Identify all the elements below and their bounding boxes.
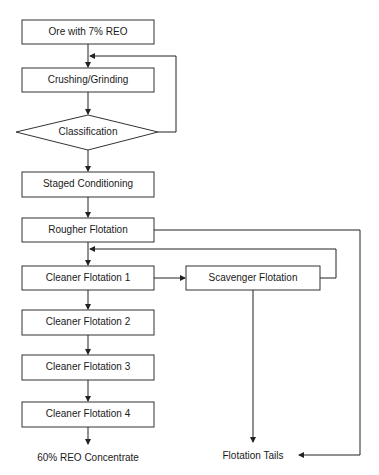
node-cleaner2-label: Cleaner Flotation 2	[46, 316, 131, 327]
node-rougher: Rougher Flotation	[22, 218, 154, 242]
node-conditioning: Staged Conditioning	[22, 172, 154, 197]
node-cleaner3: Cleaner Flotation 3	[22, 355, 154, 380]
node-conditioning-label: Staged Conditioning	[43, 178, 133, 189]
node-cleaner4: Cleaner Flotation 4	[22, 402, 154, 427]
node-ore: Ore with 7% REO	[22, 20, 154, 44]
node-crushing-label: Crushing/Grinding	[48, 74, 129, 85]
node-cleaner4-label: Cleaner Flotation 4	[46, 408, 131, 419]
node-classification: Classification	[16, 115, 158, 150]
node-cleaner1: Cleaner Flotation 1	[22, 266, 154, 290]
output-concentrate: 60% REO Concentrate	[37, 452, 139, 463]
node-scavenger: Scavenger Flotation	[186, 266, 320, 290]
output-tails: Flotation Tails	[223, 450, 284, 461]
node-cleaner3-label: Cleaner Flotation 3	[46, 361, 131, 372]
node-cleaner1-label: Cleaner Flotation 1	[46, 272, 131, 283]
node-crushing: Crushing/Grinding	[22, 68, 154, 92]
flowchart: Ore with 7% REO Crushing/Grinding Classi…	[0, 0, 379, 475]
node-ore-label: Ore with 7% REO	[49, 26, 128, 37]
node-scavenger-label: Scavenger Flotation	[209, 272, 298, 283]
node-rougher-label: Rougher Flotation	[48, 224, 128, 235]
node-cleaner2: Cleaner Flotation 2	[22, 310, 154, 335]
arrow-rougher-tails	[154, 230, 360, 455]
node-classification-label: Classification	[59, 126, 118, 137]
